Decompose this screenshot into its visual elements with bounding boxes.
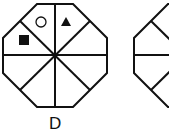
octagon-option-next (134, 4, 169, 107)
symbol-circle-outline (36, 17, 46, 27)
option-label-d: D (49, 115, 61, 132)
symbol-triangle-filled (61, 17, 71, 26)
octagon-option-d (3, 4, 107, 107)
figure-canvas (0, 0, 169, 137)
symbol-square-filled (19, 35, 29, 45)
